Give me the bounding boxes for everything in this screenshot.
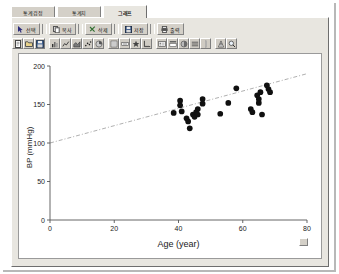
chart-pie-icon[interactable]	[93, 38, 104, 49]
info-icon[interactable]	[215, 38, 226, 49]
title-icon[interactable]	[167, 38, 178, 49]
copy-icon	[53, 26, 60, 33]
y-axis-title-text: BP (mmHg)	[25, 103, 34, 193]
toolbar-separator	[78, 24, 83, 34]
pointer-icon	[17, 26, 24, 33]
print-button-label: 출력	[170, 26, 180, 33]
save-button-label: 저장	[134, 26, 144, 33]
tab-label: 통계치	[72, 9, 86, 16]
color-icon[interactable]	[178, 38, 189, 49]
open-folder-icon[interactable]	[23, 38, 34, 49]
window-right-edge	[334, 3, 336, 271]
print-button[interactable]: 출력	[157, 23, 184, 35]
svg-text:0: 0	[48, 225, 52, 232]
toolbar-separator	[42, 24, 47, 34]
application-window: 통계검정 통계치 그래프 선택 복사	[0, 0, 339, 274]
save-disk-icon[interactable]	[34, 38, 45, 49]
copy-button[interactable]: 복사	[49, 23, 76, 35]
axis-icon[interactable]	[141, 38, 152, 49]
svg-text:50: 50	[37, 178, 45, 185]
print-icon	[161, 26, 168, 33]
select-button[interactable]: 선택	[13, 23, 40, 35]
separator-icon[interactable]	[200, 38, 211, 49]
chart-panel[interactable]: 050100150200020406080Age (year)	[18, 53, 322, 259]
y-axis-title: BP (mmHg)	[22, 105, 34, 195]
delete-button-label: 삭제	[98, 26, 108, 33]
select-button-label: 선택	[26, 26, 36, 33]
svg-text:0: 0	[41, 217, 45, 224]
legend-icon[interactable]	[156, 38, 167, 49]
svg-text:Age (year): Age (year)	[157, 239, 199, 249]
tab-graph[interactable]: 그래프	[103, 5, 147, 18]
svg-text:150: 150	[33, 101, 45, 108]
svg-text:200: 200	[33, 63, 45, 70]
delete-button[interactable]: 삭제	[85, 23, 112, 35]
window-bottom-edge	[3, 270, 336, 272]
svg-text:100: 100	[33, 140, 45, 147]
svg-text:20: 20	[110, 225, 118, 232]
svg-text:60: 60	[239, 225, 247, 232]
label-icon[interactable]	[119, 38, 130, 49]
graph-icon-toolbar	[12, 37, 328, 50]
delete-icon	[89, 26, 96, 33]
svg-text:40: 40	[175, 225, 183, 232]
marker-icon[interactable]	[130, 38, 141, 49]
grid-icon[interactable]	[108, 38, 119, 49]
save-button[interactable]: 저장	[121, 23, 148, 35]
toolbar-separator	[114, 24, 119, 34]
chart-bar-icon[interactable]	[49, 38, 60, 49]
save-icon	[125, 26, 132, 33]
tab-label: 통계검정	[23, 9, 42, 16]
chart-line-icon[interactable]	[60, 38, 71, 49]
scatter-plot: 050100150200020406080Age (year)	[19, 54, 321, 258]
toolbar-separator	[150, 24, 155, 34]
chart-scatter-icon[interactable]	[82, 38, 93, 49]
chart-resize-handle[interactable]	[299, 238, 308, 246]
main-toolbar: 선택 복사 삭제 저장 출력	[12, 22, 328, 36]
svg-text:80: 80	[303, 225, 311, 232]
zoom-icon[interactable]	[226, 38, 237, 49]
tab-label: 그래프	[118, 9, 132, 16]
style-icon[interactable]	[189, 38, 200, 49]
copy-button-label: 복사	[62, 26, 72, 33]
chart-area-icon[interactable]	[71, 38, 82, 49]
new-doc-icon[interactable]	[12, 38, 23, 49]
